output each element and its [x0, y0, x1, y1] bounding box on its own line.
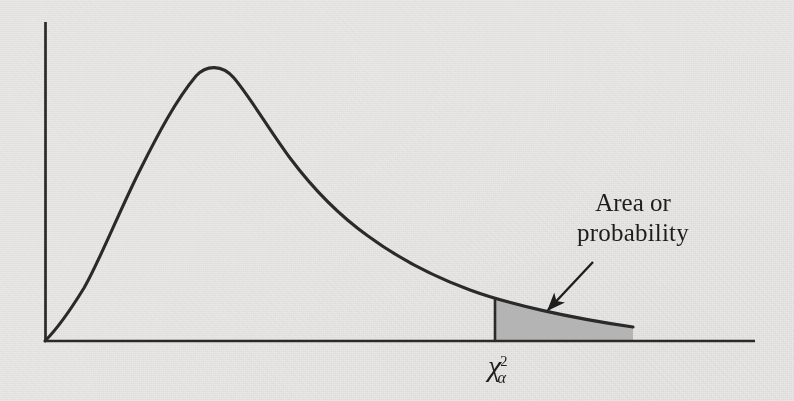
distribution-curve: [45, 68, 633, 341]
annotation-line-2: probability: [548, 218, 718, 248]
chi-square-distribution-figure: Area or probability χ2α: [0, 0, 794, 401]
chi-subscript-alpha: α: [497, 369, 506, 387]
critical-value-axis-label: χ2α: [466, 348, 528, 388]
chi-superscript-2: 2: [500, 353, 507, 369]
area-probability-annotation: Area or probability: [548, 188, 718, 247]
annotation-line-1: Area or: [548, 188, 718, 218]
annotation-arrow: [548, 262, 593, 310]
